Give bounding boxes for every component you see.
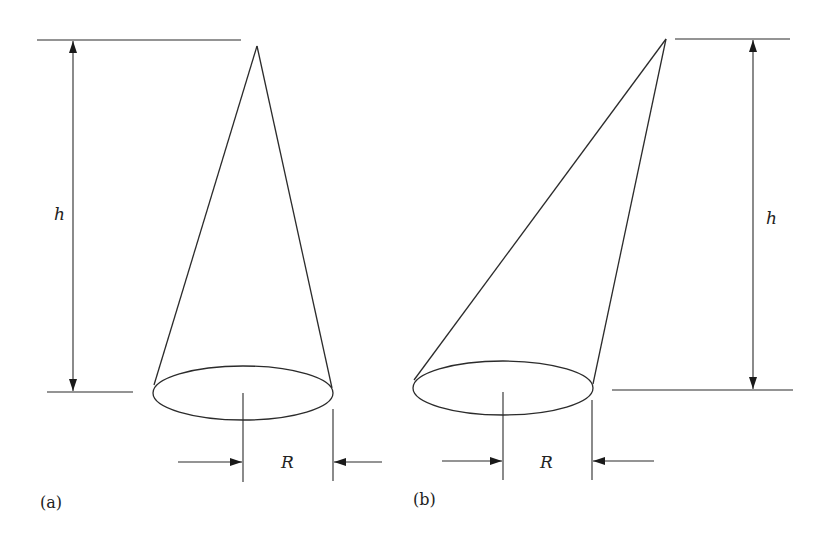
cone-right-edge — [593, 39, 666, 384]
cone-diagram: h R (a) h R (b) — [0, 0, 827, 541]
height-label: h — [766, 208, 777, 228]
radius-label: R — [539, 452, 553, 472]
cone-left-edge — [414, 39, 666, 380]
panel-caption: (b) — [413, 490, 436, 509]
panel-a: h R (a) — [37, 40, 382, 512]
panel-caption: (a) — [40, 493, 62, 512]
cone-left-edge — [154, 46, 257, 385]
height-label: h — [54, 204, 65, 224]
panel-b: h R (b) — [413, 39, 793, 509]
radius-label: R — [280, 452, 294, 472]
cone-right-edge — [257, 46, 332, 388]
